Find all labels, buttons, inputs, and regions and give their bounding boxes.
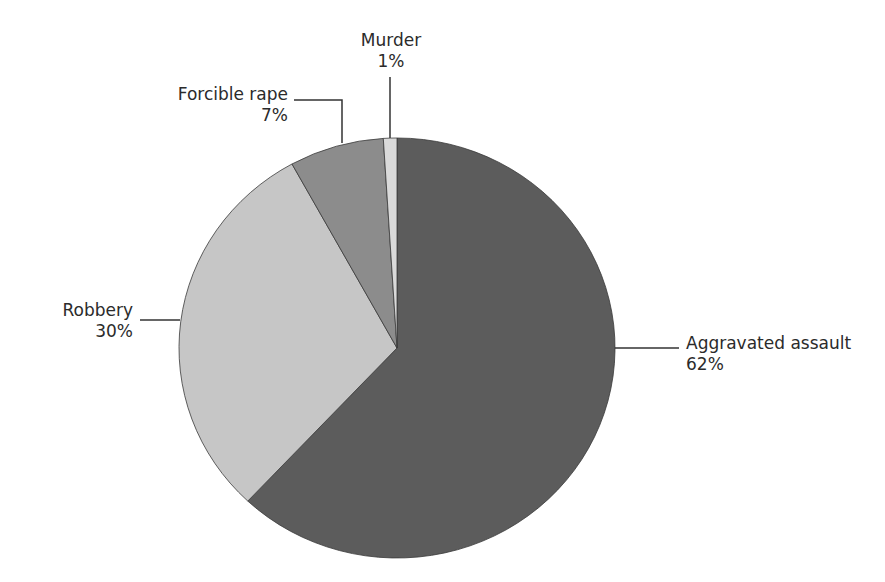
label-robbery: Robbery 30% xyxy=(20,300,133,342)
label-murder-pct: 1% xyxy=(356,51,426,72)
pie-slices xyxy=(179,138,615,558)
pie-chart xyxy=(0,0,885,582)
label-forcible-rape-name: Forcible rape xyxy=(140,84,288,105)
label-aggravated-assault-pct: 62% xyxy=(686,354,876,375)
label-murder-name: Murder xyxy=(356,30,426,51)
leader-line-forcible-rape xyxy=(294,100,342,143)
label-forcible-rape: Forcible rape 7% xyxy=(140,84,288,126)
label-aggravated-assault-name: Aggravated assault xyxy=(686,333,876,354)
label-aggravated-assault: Aggravated assault 62% xyxy=(686,333,876,375)
label-murder: Murder 1% xyxy=(356,30,426,72)
label-robbery-name: Robbery xyxy=(20,300,133,321)
label-robbery-pct: 30% xyxy=(20,321,133,342)
label-forcible-rape-pct: 7% xyxy=(140,105,288,126)
